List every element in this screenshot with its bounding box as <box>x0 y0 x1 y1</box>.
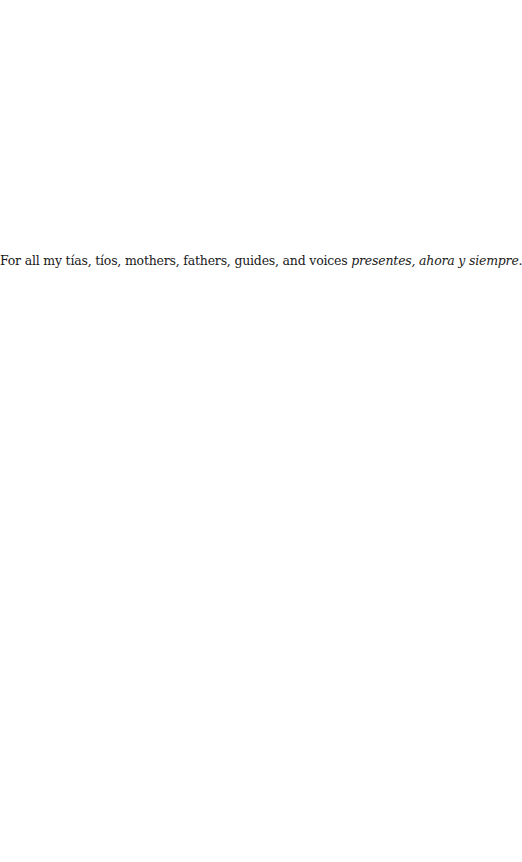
dedication-plain: For all my tías, tíos, mothers, fathers,… <box>0 253 351 268</box>
dedication-end: . <box>519 253 522 268</box>
dedication-italic: presentes, ahora y siempre <box>351 253 518 268</box>
dedication-text: For all my tías, tíos, mothers, fathers,… <box>0 253 497 269</box>
